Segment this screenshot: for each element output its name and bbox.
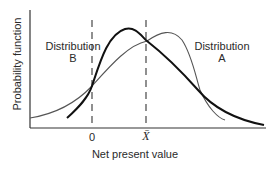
x-tick-mean: X̄: [139, 130, 153, 142]
x-axis-label: Net present value: [80, 148, 190, 160]
distribution-b-label-line2: B: [37, 52, 109, 64]
distribution-b-label: Distribution B: [37, 40, 109, 64]
x-tick-zero: 0: [86, 131, 98, 143]
y-axis-label: Probability function: [11, 9, 23, 119]
chart-canvas: [0, 0, 273, 171]
distribution-a-label: Distribution A: [186, 40, 258, 64]
distribution-b-label-line1: Distribution: [37, 40, 109, 52]
distribution-a-label-line1: Distribution: [186, 40, 258, 52]
distribution-a-label-line2: A: [186, 52, 258, 64]
